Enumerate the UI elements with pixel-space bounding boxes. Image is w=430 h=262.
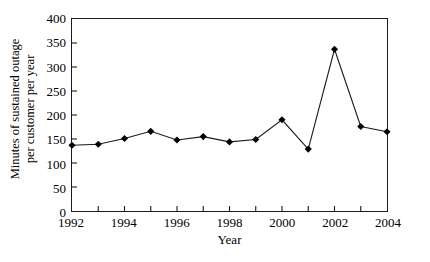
x-tick-label: 2002	[322, 215, 348, 230]
x-tick-label: 2000	[269, 215, 295, 230]
chart-figure: Minutes of sustained outage per customer…	[0, 0, 430, 262]
y-tick-label: 350	[47, 36, 67, 49]
y-axis-tick-labels: 050100150200250300350400	[36, 18, 66, 212]
x-axis-tick-labels: 1992199419961998200020022004	[71, 215, 388, 233]
data-point	[200, 133, 207, 140]
data-point	[331, 46, 338, 53]
data-point	[226, 138, 233, 145]
y-tick-label: 200	[47, 109, 67, 122]
data-point	[95, 141, 102, 148]
y-tick-label: 50	[53, 181, 66, 194]
x-axis-title: Year	[71, 232, 388, 248]
data-point	[173, 136, 180, 143]
data-line	[72, 49, 387, 149]
x-tick-label: 1992	[58, 215, 84, 230]
data-point	[68, 142, 75, 149]
data-point	[357, 123, 364, 130]
plot-area	[71, 18, 388, 212]
data-layer	[72, 19, 387, 211]
x-tick-label: 1998	[217, 215, 243, 230]
y-tick-label: 150	[47, 133, 67, 146]
y-axis-title-line-1: Minutes of sustained outage	[8, 39, 23, 180]
y-tick-label: 300	[47, 60, 67, 73]
data-point	[121, 135, 128, 142]
y-tick-label: 100	[47, 157, 67, 170]
data-point	[383, 128, 390, 135]
x-tick-label: 1996	[164, 215, 190, 230]
data-point	[147, 128, 154, 135]
x-tick-label: 2004	[375, 215, 401, 230]
data-markers	[68, 46, 390, 153]
axis-ticks	[72, 43, 361, 211]
y-tick-label: 400	[47, 12, 67, 25]
y-tick-label: 250	[47, 84, 67, 97]
x-tick-label: 1994	[111, 215, 137, 230]
